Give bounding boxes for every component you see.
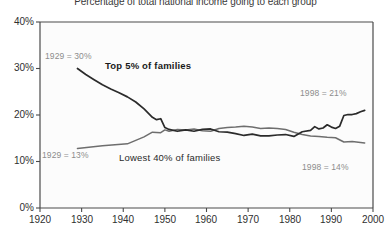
plot-area <box>0 0 391 245</box>
y-tick-label-20: 20% <box>2 109 34 120</box>
y-tick-label-40: 40% <box>2 16 34 27</box>
annotation-top-start: 1929 = 30% <box>45 51 92 61</box>
x-tick-label-1990: 1990 <box>311 214 351 225</box>
x-tick-label-1960: 1960 <box>186 214 226 225</box>
y-tick-label-30: 30% <box>2 62 34 73</box>
income-distribution-chart: Percentage of total national income goin… <box>0 0 391 245</box>
series-label-top-5: Top 5% of families <box>105 60 191 71</box>
x-tick-label-1940: 1940 <box>103 214 143 225</box>
x-tick-label-1920: 1920 <box>20 214 60 225</box>
y-tick-label-0: 0% <box>2 202 34 213</box>
x-tick-label-1950: 1950 <box>145 214 185 225</box>
plot-background <box>40 22 373 208</box>
annotation-low-end: 1998 = 14% <box>302 162 349 172</box>
x-tick-label-1930: 1930 <box>62 214 102 225</box>
x-tick-label-1980: 1980 <box>270 214 310 225</box>
x-tick-label-1970: 1970 <box>228 214 268 225</box>
x-tick-label-2000: 2000 <box>353 214 391 225</box>
series-label-lowest-40: Lowest 40% of families <box>119 152 221 163</box>
annotation-low-start: 1929 = 13% <box>42 150 89 160</box>
x-axis-ticks <box>40 208 373 212</box>
y-tick-label-10: 10% <box>2 155 34 166</box>
annotation-top-end: 1998 = 21% <box>300 88 347 98</box>
